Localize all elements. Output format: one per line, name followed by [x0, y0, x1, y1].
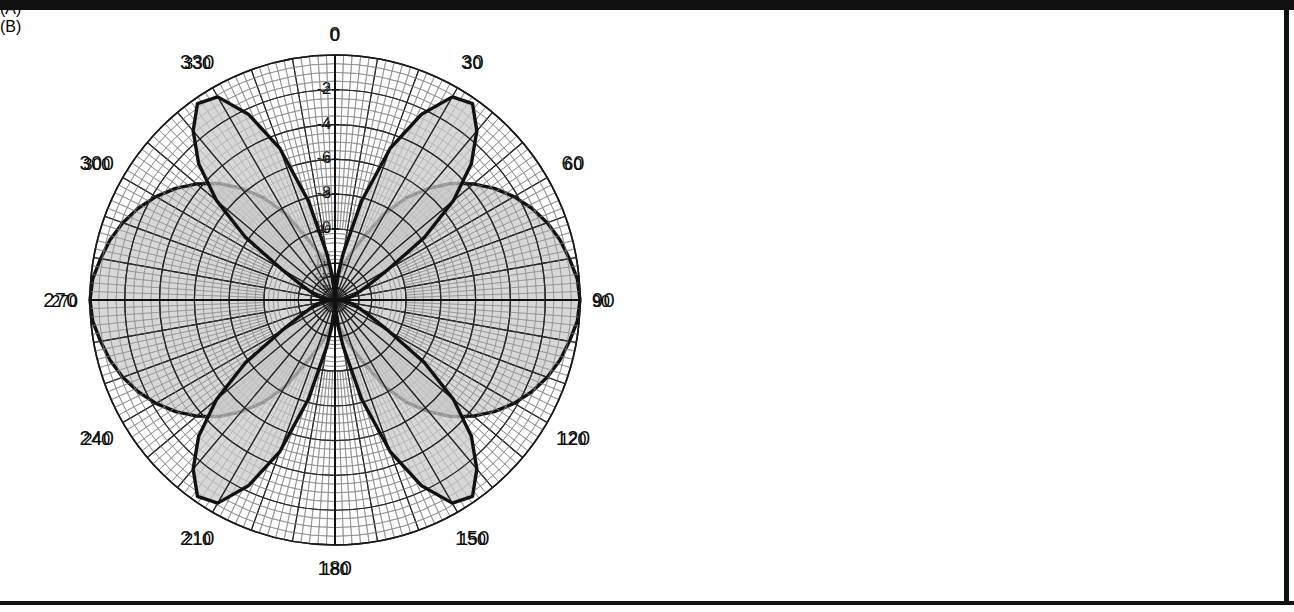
angle-tick-label: 30	[461, 51, 484, 73]
angle-tick-label: 240	[79, 427, 114, 449]
angle-tick-label: 0	[329, 23, 341, 45]
principal-axes	[90, 55, 580, 545]
radial-tick-label: -15	[319, 259, 331, 268]
angle-tick-label: 120	[556, 427, 591, 449]
radial-tick-label: -4	[321, 119, 332, 131]
angle-tick-label: 150	[455, 527, 490, 549]
radial-tick-label: -6	[321, 153, 331, 165]
polar-chart-b-svg: -2-4-6-8-10-15-20-3003060901201501802102…	[0, 0, 645, 612]
radial-tick-label: -8	[321, 188, 331, 200]
angle-tick-label: 180	[318, 557, 353, 579]
figure-frame: -2-4-6-8-10-15-20-3003060901201501802102…	[0, 0, 1294, 612]
angle-tick-label: 330	[180, 51, 215, 73]
angle-tick-label: 270	[43, 289, 78, 311]
frame-right-rule	[1284, 0, 1289, 601]
angle-tick-label: 60	[562, 152, 585, 174]
angle-tick-label: 300	[79, 152, 114, 174]
radial-tick-label: -10	[314, 223, 331, 235]
radial-tick-label: -30	[319, 283, 331, 292]
radial-tick-label: -20	[319, 271, 331, 280]
angle-tick-label: 90	[592, 289, 615, 311]
angle-tick-label: 210	[180, 527, 215, 549]
polar-plot-b: -2-4-6-8-10-15-20-3003060901201501802102…	[0, 0, 645, 612]
radial-tick-label: -2	[321, 84, 331, 96]
